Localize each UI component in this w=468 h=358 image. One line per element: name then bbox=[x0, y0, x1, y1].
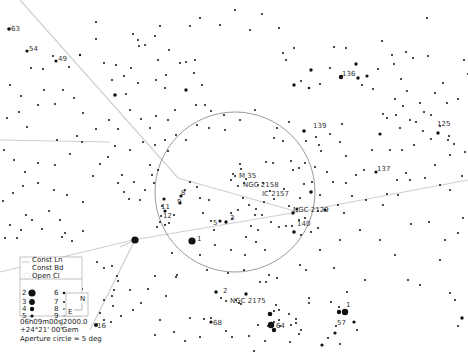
star bbox=[16, 237, 18, 239]
star bbox=[461, 175, 463, 177]
star bbox=[244, 254, 246, 256]
label-star-63: 63 bbox=[11, 25, 20, 33]
star bbox=[120, 315, 122, 317]
star bbox=[71, 240, 73, 242]
star bbox=[285, 225, 287, 227]
star bbox=[361, 84, 363, 86]
star bbox=[351, 195, 353, 197]
label-star-140: 140 bbox=[297, 220, 310, 228]
star bbox=[261, 13, 263, 15]
star bbox=[446, 102, 448, 104]
legend-constellation: Gem bbox=[62, 326, 79, 334]
star bbox=[224, 129, 226, 131]
star bbox=[61, 236, 63, 238]
star bbox=[30, 67, 32, 69]
star bbox=[292, 83, 295, 86]
star bbox=[41, 228, 43, 230]
star bbox=[304, 162, 306, 164]
star bbox=[3, 149, 5, 151]
star bbox=[395, 114, 397, 116]
star bbox=[320, 150, 322, 152]
label-star-137: 137 bbox=[377, 165, 390, 173]
star bbox=[457, 232, 459, 234]
star bbox=[423, 111, 425, 113]
star bbox=[405, 172, 407, 174]
star bbox=[12, 192, 14, 194]
star bbox=[305, 269, 307, 271]
legend-const-bd: Const Bd bbox=[32, 264, 63, 272]
star bbox=[305, 140, 307, 142]
star bbox=[317, 227, 319, 229]
star bbox=[255, 208, 257, 210]
star bbox=[160, 215, 162, 217]
label-star-m35: M 35 bbox=[239, 172, 256, 180]
star bbox=[220, 297, 222, 299]
star bbox=[428, 221, 430, 223]
star bbox=[270, 221, 272, 223]
compass-east: E bbox=[68, 308, 72, 316]
star bbox=[308, 87, 310, 89]
label-star-ngc2129: NGC 2129 bbox=[293, 206, 329, 214]
star bbox=[378, 132, 381, 135]
star bbox=[149, 127, 151, 129]
star bbox=[37, 182, 39, 184]
star bbox=[155, 115, 157, 117]
star-chart[interactable]: 635449136139125137M 35NGC 2158IC 2157NGC… bbox=[0, 0, 468, 358]
star bbox=[295, 318, 297, 320]
star bbox=[157, 59, 159, 61]
star bbox=[92, 175, 94, 177]
label-star-139: 139 bbox=[313, 122, 326, 130]
star bbox=[371, 149, 373, 151]
star bbox=[463, 59, 465, 61]
label-star-54: 54 bbox=[29, 45, 38, 53]
star bbox=[409, 179, 411, 181]
star bbox=[333, 331, 336, 334]
star bbox=[42, 68, 44, 70]
star bbox=[457, 325, 459, 327]
star bbox=[288, 205, 290, 207]
star bbox=[237, 209, 239, 211]
star bbox=[224, 220, 227, 223]
star bbox=[462, 217, 464, 219]
star bbox=[415, 121, 417, 123]
star bbox=[140, 118, 142, 120]
star bbox=[330, 301, 332, 303]
star bbox=[386, 193, 388, 195]
star bbox=[173, 331, 175, 333]
label-star-49: 49 bbox=[58, 55, 67, 63]
star bbox=[407, 279, 409, 281]
star bbox=[230, 179, 232, 181]
star bbox=[448, 135, 450, 137]
star bbox=[173, 214, 175, 216]
star bbox=[156, 226, 158, 228]
star bbox=[257, 229, 259, 231]
star bbox=[113, 93, 117, 97]
label-star-68: 68 bbox=[213, 319, 222, 327]
star bbox=[234, 9, 236, 11]
star bbox=[427, 55, 429, 57]
star bbox=[319, 249, 321, 251]
star bbox=[278, 319, 280, 321]
star bbox=[194, 59, 196, 61]
star bbox=[268, 322, 274, 328]
star bbox=[309, 68, 312, 71]
star bbox=[111, 79, 113, 81]
star bbox=[333, 46, 335, 48]
star bbox=[115, 64, 117, 66]
star bbox=[214, 244, 216, 246]
star bbox=[128, 198, 130, 200]
star bbox=[56, 139, 58, 141]
star bbox=[356, 329, 358, 331]
star bbox=[302, 129, 306, 133]
star bbox=[96, 261, 98, 263]
star bbox=[2, 200, 4, 202]
star bbox=[250, 225, 252, 227]
star bbox=[363, 169, 365, 171]
star bbox=[82, 201, 84, 203]
star bbox=[154, 144, 156, 146]
star bbox=[95, 21, 97, 23]
star bbox=[436, 131, 439, 134]
star bbox=[338, 306, 340, 308]
star bbox=[293, 47, 295, 49]
star bbox=[199, 254, 201, 256]
